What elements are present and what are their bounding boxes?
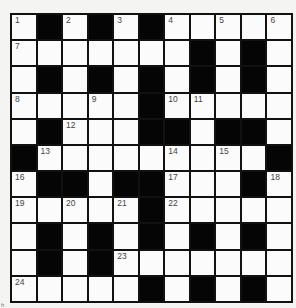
black-square <box>140 94 164 118</box>
grid-cell[interactable] <box>63 277 87 301</box>
grid-cell[interactable] <box>89 277 113 301</box>
grid-cell[interactable] <box>114 224 138 248</box>
grid-cell[interactable] <box>191 198 215 222</box>
grid-cell[interactable]: 10 <box>165 94 189 118</box>
grid-cell[interactable] <box>216 251 240 275</box>
grid-cell[interactable] <box>140 146 164 170</box>
grid-cell[interactable] <box>63 67 87 91</box>
grid-cell[interactable]: 23 <box>114 251 138 275</box>
grid-cell[interactable] <box>89 41 113 65</box>
black-square <box>242 277 266 301</box>
grid-cell[interactable] <box>89 146 113 170</box>
grid-cell[interactable] <box>242 198 266 222</box>
grid-cell[interactable] <box>140 251 164 275</box>
grid-cell[interactable]: 9 <box>89 94 113 118</box>
grid-cell[interactable] <box>242 94 266 118</box>
grid-cell[interactable] <box>38 94 62 118</box>
grid-cell[interactable] <box>267 277 291 301</box>
grid-cell[interactable]: 7 <box>12 41 36 65</box>
grid-cell[interactable] <box>12 67 36 91</box>
grid-cell[interactable] <box>114 146 138 170</box>
grid-cell[interactable] <box>89 120 113 144</box>
grid-cell[interactable] <box>216 94 240 118</box>
grid-cell[interactable]: 6 <box>267 15 291 39</box>
grid-cell[interactable] <box>267 94 291 118</box>
grid-cell[interactable] <box>242 15 266 39</box>
grid-cell[interactable]: 20 <box>63 198 87 222</box>
grid-cell[interactable] <box>191 120 215 144</box>
grid-cell[interactable] <box>165 224 189 248</box>
grid-cell[interactable] <box>114 94 138 118</box>
grid-cell[interactable] <box>140 41 164 65</box>
grid-cell[interactable]: 11 <box>191 94 215 118</box>
grid-cell[interactable]: 19 <box>12 198 36 222</box>
grid-cell[interactable] <box>38 41 62 65</box>
grid-cell[interactable] <box>267 198 291 222</box>
black-square <box>38 172 62 196</box>
grid-cell[interactable] <box>165 251 189 275</box>
grid-cell[interactable]: 14 <box>165 146 189 170</box>
grid-cell[interactable] <box>114 41 138 65</box>
grid-cell[interactable] <box>89 198 113 222</box>
clue-number: 17 <box>168 173 177 182</box>
grid-cell[interactable] <box>114 120 138 144</box>
grid-cell[interactable] <box>267 224 291 248</box>
grid-cell[interactable] <box>191 146 215 170</box>
grid-cell[interactable] <box>63 94 87 118</box>
grid-cell[interactable] <box>63 146 87 170</box>
black-square <box>140 67 164 91</box>
grid-cell[interactable] <box>165 277 189 301</box>
grid-cell[interactable]: 15 <box>216 146 240 170</box>
grid-cell[interactable] <box>191 172 215 196</box>
grid-cell[interactable] <box>63 224 87 248</box>
black-square <box>242 120 266 144</box>
grid-cell[interactable] <box>38 277 62 301</box>
black-square <box>38 224 62 248</box>
grid-cell[interactable] <box>191 251 215 275</box>
grid-cell[interactable] <box>216 41 240 65</box>
grid-cell[interactable] <box>267 120 291 144</box>
grid-cell[interactable]: 17 <box>165 172 189 196</box>
grid-cell[interactable]: 18 <box>267 172 291 196</box>
grid-cell[interactable] <box>63 41 87 65</box>
grid-cell[interactable] <box>267 251 291 275</box>
grid-cell[interactable]: 22 <box>165 198 189 222</box>
grid-cell[interactable] <box>216 67 240 91</box>
grid-cell[interactable]: 13 <box>38 146 62 170</box>
grid-cell[interactable] <box>216 172 240 196</box>
clue-number: 9 <box>92 95 97 104</box>
black-square <box>140 277 164 301</box>
grid-cell[interactable] <box>12 224 36 248</box>
grid-cell[interactable]: 1 <box>12 15 36 39</box>
grid-cell[interactable] <box>89 172 113 196</box>
grid-cell[interactable] <box>242 251 266 275</box>
grid-cell[interactable] <box>191 15 215 39</box>
grid-cell[interactable] <box>165 67 189 91</box>
clue-number: 10 <box>168 95 177 104</box>
grid-cell[interactable] <box>216 198 240 222</box>
grid-cell[interactable]: 24 <box>12 277 36 301</box>
grid-cell[interactable]: 4 <box>165 15 189 39</box>
grid-cell[interactable] <box>165 41 189 65</box>
grid-cell[interactable]: 21 <box>114 198 138 222</box>
grid-cell[interactable] <box>216 277 240 301</box>
grid-cell[interactable] <box>38 198 62 222</box>
grid-cell[interactable]: 8 <box>12 94 36 118</box>
clue-number: 1 <box>15 16 20 25</box>
clue-number: 18 <box>270 173 279 182</box>
grid-cell[interactable]: 3 <box>114 15 138 39</box>
grid-cell[interactable] <box>242 146 266 170</box>
grid-cell[interactable] <box>216 224 240 248</box>
grid-cell[interactable] <box>267 41 291 65</box>
grid-cell[interactable] <box>114 67 138 91</box>
grid-cell[interactable] <box>114 277 138 301</box>
grid-cell[interactable] <box>12 251 36 275</box>
grid-cell[interactable]: 12 <box>63 120 87 144</box>
grid-cell[interactable] <box>63 251 87 275</box>
grid-cell[interactable] <box>12 120 36 144</box>
grid-cell[interactable] <box>267 67 291 91</box>
grid-cell[interactable]: 2 <box>63 15 87 39</box>
grid-cell[interactable]: 16 <box>12 172 36 196</box>
black-square <box>12 146 36 170</box>
grid-cell[interactable]: 5 <box>216 15 240 39</box>
